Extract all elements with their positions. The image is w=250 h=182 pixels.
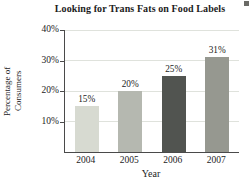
y-axis-title-line2: Consumers xyxy=(13,28,24,154)
y-tick-mark-20% xyxy=(60,91,64,92)
bar-value-label-2006: 25% xyxy=(157,64,191,74)
bar-2005 xyxy=(118,91,142,152)
bar-2007 xyxy=(205,57,229,152)
chart-title: Looking for Trans Fats on Food Labels xyxy=(0,3,250,14)
x-tick-label-2007: 2007 xyxy=(194,155,238,165)
x-tick-label-2005: 2005 xyxy=(107,155,151,165)
y-tick-mark-40% xyxy=(60,30,64,31)
y-tick-label-10%: 10% xyxy=(26,116,59,126)
bar-value-label-2007: 31% xyxy=(200,45,234,55)
bar-2004 xyxy=(75,106,99,152)
x-tick-label-2006: 2006 xyxy=(151,155,195,165)
bar-value-label-2004: 15% xyxy=(70,94,104,104)
scan-artifact xyxy=(244,1,249,6)
y-tick-label-20%: 20% xyxy=(26,85,59,95)
gridline-40% xyxy=(65,30,239,31)
bar-chart: Looking for Trans Fats on Food Labels Pe… xyxy=(0,0,250,182)
y-tick-label-30%: 30% xyxy=(26,55,59,65)
y-tick-mark-30% xyxy=(60,61,64,62)
y-tick-label-40%: 40% xyxy=(26,24,59,34)
y-tick-mark-10% xyxy=(60,122,64,123)
bar-value-label-2005: 20% xyxy=(113,79,147,89)
x-axis-title: Year xyxy=(64,168,238,179)
bar-2006 xyxy=(162,76,186,152)
plot-area: 15%20%25%31% xyxy=(64,30,239,153)
y-axis-title-line1: Percentage of xyxy=(2,28,13,154)
y-axis-title: Percentage of Consumers xyxy=(2,28,24,154)
x-tick-label-2004: 2004 xyxy=(64,155,108,165)
